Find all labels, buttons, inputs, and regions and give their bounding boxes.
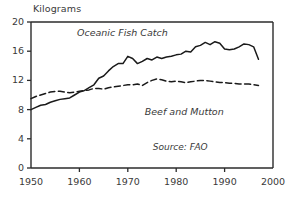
source-annotation: Source: FAO — [153, 142, 208, 152]
y-tick-label-4: 4 — [2, 133, 24, 144]
y-tick-label-8: 8 — [2, 104, 24, 115]
x-tick-label-1950: 1950 — [14, 176, 48, 187]
x-tick-label-1960: 1960 — [62, 176, 96, 187]
y-tick-label-20: 20 — [2, 16, 24, 27]
y-tick-label-0: 0 — [2, 162, 24, 173]
x-tick-label-1990: 1990 — [208, 176, 242, 187]
fish-catch-chart: Kilograms 048121620 19501960197019801990… — [0, 0, 288, 199]
series-line-beef-and-mutton — [31, 79, 258, 99]
data-series-group — [31, 42, 258, 110]
series-line-oceanic-fish-catch — [31, 42, 258, 110]
y-tick-label-12: 12 — [2, 74, 24, 85]
x-tick-label-1980: 1980 — [159, 176, 193, 187]
series-label-beef-and-mutton: Beef and Mutton — [145, 106, 224, 117]
y-tick-label-16: 16 — [2, 45, 24, 56]
x-tick-label-1970: 1970 — [111, 176, 145, 187]
x-tick-label-2000: 2000 — [256, 176, 288, 187]
series-label-oceanic-fish-catch: Oceanic Fish Catch — [77, 27, 168, 38]
